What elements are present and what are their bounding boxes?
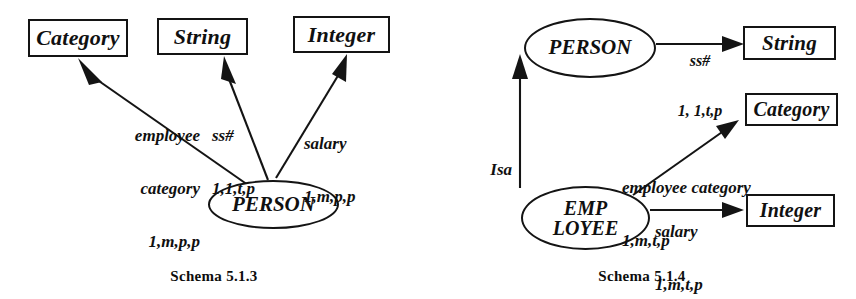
arrowhead-employee-category	[78, 58, 102, 85]
node-label: PERSON	[549, 37, 632, 58]
node-integer: Integer	[293, 16, 390, 53]
node-string: String	[157, 18, 248, 55]
node-label: Integer	[308, 22, 375, 48]
edge-cardinality: 1,m,p,p	[304, 188, 414, 206]
arrowhead-ss-number	[221, 56, 236, 84]
edge-property-name-line1: salary	[655, 223, 745, 241]
edge-property-name-line2: category	[76, 180, 200, 198]
edge-label-employee-category: employee category 1,m,p,p	[76, 92, 200, 286]
figure-page: Category String Integer PERSON employee …	[0, 0, 856, 299]
node-person: PERSON	[524, 18, 656, 78]
edge-property-name-line1: ss#	[660, 53, 740, 70]
arrowhead-isa	[512, 54, 528, 79]
node-label: Category	[753, 98, 829, 121]
edge-property-name-line1: salary	[304, 135, 414, 153]
diagram-canvas-right: PERSON EMP LOYEE String Category Integer…	[428, 0, 856, 262]
figure-caption-left: Schema 5.1.3	[0, 268, 428, 285]
edge-property-name-line1: Isa	[460, 161, 512, 179]
diagram-canvas-left: Category String Integer PERSON employee …	[0, 0, 428, 262]
edge-property-name-line1: employee	[76, 127, 200, 145]
node-category: Category	[745, 93, 838, 126]
edge-cardinality: 1, 1,t,p	[660, 103, 740, 120]
node-label: Category	[36, 25, 119, 51]
edge-label-salary: salary 1,m,p,p	[304, 100, 414, 241]
figure-caption-right: Schema 5.1.4	[428, 268, 856, 285]
edge-property-name-line1: ss#	[212, 127, 298, 145]
edge-label-isa: Isa	[460, 126, 512, 214]
edge-cardinality: 1,m,p,p	[76, 233, 200, 251]
edge-cardinality: 1,1,t,p	[212, 180, 298, 198]
node-label: String	[762, 31, 817, 56]
node-label: String	[174, 24, 231, 50]
figure-schema-5-1-4: PERSON EMP LOYEE String Category Integer…	[428, 0, 856, 299]
node-label-line1: EMP	[564, 198, 607, 218]
edge-label-ss-number: ss# 1, 1,t,p	[660, 20, 740, 153]
edge-label-ss-number: ss# 1,1,t,p	[212, 92, 298, 233]
figure-schema-5-1-3: Category String Integer PERSON employee …	[0, 0, 428, 299]
node-string: String	[743, 26, 836, 60]
node-category: Category	[28, 19, 128, 57]
arrowhead-salary	[332, 54, 347, 82]
node-label-line2: LOYEE	[553, 218, 619, 238]
